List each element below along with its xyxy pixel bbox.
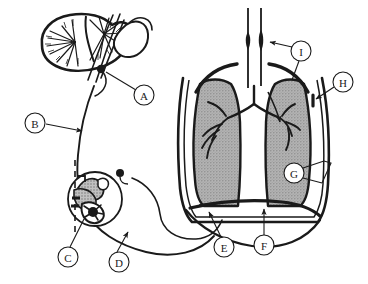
callout-c[interactable]: C	[58, 247, 78, 267]
callout-i[interactable]: I	[291, 41, 311, 61]
pleura-mark-left	[246, 32, 251, 50]
leader-line-A	[106, 72, 136, 90]
callout-circle-i[interactable]	[291, 41, 311, 61]
anatomy-diagram-canvas: ABCDEFGHI	[0, 0, 368, 284]
callout-circle-e[interactable]	[214, 237, 234, 257]
callout-circle-g[interactable]	[284, 163, 304, 183]
callout-b[interactable]: B	[25, 113, 45, 133]
callout-circle-c[interactable]	[58, 247, 78, 267]
callout-circle-d[interactable]	[109, 252, 129, 272]
diaphragm-lower-contour	[186, 210, 320, 247]
nerve-branch-upper	[95, 72, 106, 96]
callout-circle-a[interactable]	[134, 85, 154, 105]
callout-h[interactable]: H	[333, 72, 353, 92]
pleura-mark-right	[259, 30, 264, 51]
lung-left	[194, 80, 241, 207]
callout-a[interactable]: A	[134, 85, 154, 105]
synapse-node-upper	[97, 65, 105, 73]
callout-circle-f[interactable]	[254, 235, 274, 255]
callout-circle-h[interactable]	[333, 72, 353, 92]
callout-e[interactable]: E	[214, 237, 234, 257]
callout-f[interactable]: F	[254, 235, 274, 255]
anatomy-figure: ABCDEFGHI	[0, 0, 368, 284]
synapse-node-lower	[116, 169, 124, 177]
leader-line-C	[70, 219, 84, 247]
leader-line-I-upper	[270, 42, 292, 47]
callout-g[interactable]: G	[284, 163, 304, 183]
nerve-stub-lower	[120, 177, 128, 184]
trachea	[248, 8, 261, 88]
callout-d[interactable]: D	[109, 252, 129, 272]
leader-line-B	[46, 124, 82, 131]
callout-circle-b[interactable]	[25, 113, 45, 133]
